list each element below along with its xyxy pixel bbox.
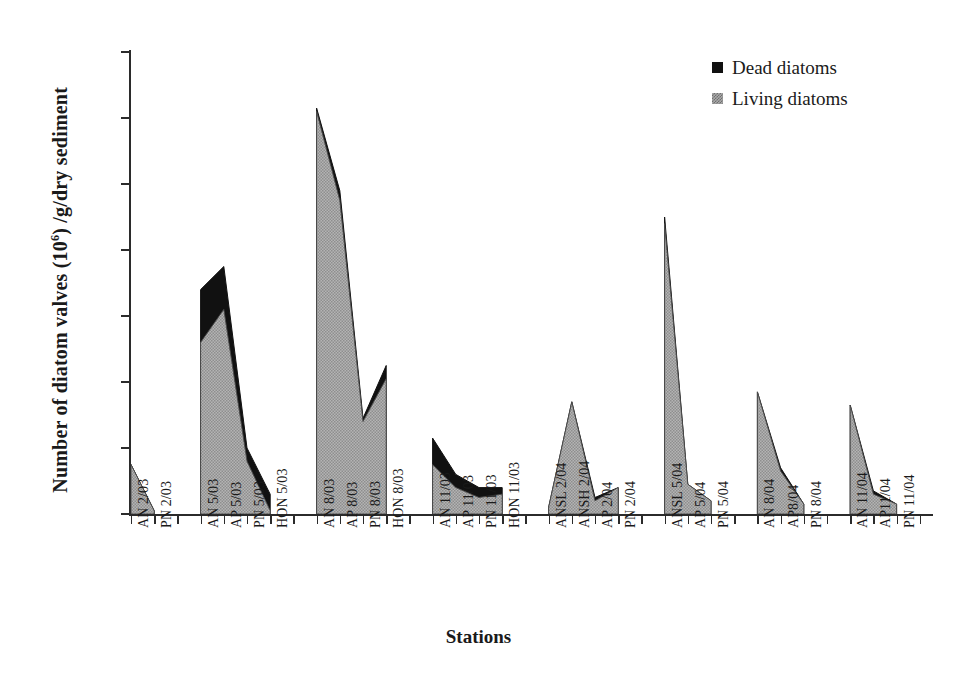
plot-area	[130, 52, 932, 514]
x-axis-tick-label: HON 11/03	[507, 462, 523, 528]
x-axis-tick	[757, 515, 758, 524]
y-axis-title: Number of diatom valves (106) /g/dry sed…	[48, 30, 72, 550]
x-axis-tick-label: AN 11/04	[855, 472, 871, 528]
x-axis-tick	[572, 515, 573, 524]
x-axis-tick-label: AN 8/03	[322, 479, 338, 528]
y-axis-tick	[121, 315, 130, 317]
x-axis-tick	[247, 515, 248, 524]
x-axis-tick-label: AP 5/04	[693, 482, 709, 528]
x-axis-tick	[665, 515, 666, 524]
x-axis-tick	[711, 515, 712, 524]
y-axis-tick	[121, 381, 130, 383]
y-axis-tick	[121, 513, 130, 515]
legend-item-dead-diatoms: Dead diatoms	[712, 52, 848, 83]
x-axis-tick	[340, 515, 341, 524]
x-axis-tick	[781, 515, 782, 524]
x-axis-tick-label: PN 8/04	[809, 481, 825, 528]
x-axis-tick	[433, 515, 434, 524]
x-axis-tick	[154, 515, 155, 524]
x-axis-tick	[850, 515, 851, 524]
x-axis-tick	[688, 515, 689, 524]
x-axis-tick	[873, 515, 874, 524]
x-axis-tick	[897, 515, 898, 524]
x-axis-tick-label: AP8/04	[786, 485, 802, 528]
y-axis-tick	[121, 51, 130, 53]
x-axis-tick-label: ANSH 2/04	[577, 461, 593, 528]
x-axis-tick-label: ANSL 5/04	[670, 463, 686, 528]
x-axis-tick-label: AN 8/04	[762, 479, 778, 528]
legend-swatch-dead-icon	[712, 62, 723, 73]
x-axis-tick-label: PN 2/03	[159, 481, 175, 528]
y-axis-title-exponent: 6	[48, 235, 62, 241]
x-axis-tick-label: PN 11/04	[902, 474, 918, 528]
legend-label-dead: Dead diatoms	[732, 52, 837, 83]
x-axis-tick	[804, 515, 805, 524]
y-axis-title-prefix: Number of diatom valves (10	[49, 241, 71, 493]
x-axis-tick	[618, 515, 619, 524]
stacked-area-series	[130, 52, 932, 514]
x-axis-tick-label: AP11/04	[878, 478, 894, 528]
x-axis-tick	[549, 515, 550, 524]
x-axis-title: Stations	[0, 626, 957, 648]
x-axis-tick	[270, 515, 271, 524]
x-axis-tick-label: AP 8/03	[345, 482, 361, 528]
x-axis-tick-label: PN 5/04	[716, 481, 732, 528]
x-axis-tick-label: PN 11/03	[484, 474, 500, 528]
x-axis-tick	[177, 515, 178, 524]
x-axis-tick-label: AN 5/03	[206, 479, 222, 528]
x-axis-tick	[224, 515, 225, 524]
x-axis-tick	[827, 515, 828, 524]
x-axis-tick	[734, 515, 735, 524]
legend-swatch-living-icon	[712, 93, 723, 104]
x-axis-tick-label: PN 8/03	[368, 481, 384, 528]
x-axis-tick-label: PN 2/04	[623, 481, 639, 528]
x-axis-tick-label: HON 5/03	[275, 468, 291, 528]
x-axis-tick	[502, 515, 503, 524]
x-axis-tick-label: AP 2/04	[600, 482, 616, 528]
x-axis-tick	[317, 515, 318, 524]
x-axis-tick-label: AN 11/03	[438, 472, 454, 528]
x-axis-tick	[479, 515, 480, 524]
x-axis-tick	[131, 515, 132, 524]
y-axis-tick	[121, 249, 130, 251]
x-axis-tick	[363, 515, 364, 524]
x-axis-tick	[386, 515, 387, 524]
x-axis-tick	[525, 515, 526, 524]
x-axis-tick-label: HON 8/03	[391, 468, 407, 528]
x-axis-tick	[920, 515, 921, 524]
x-axis-tick	[201, 515, 202, 524]
x-axis-tick	[595, 515, 596, 524]
chart-legend: Dead diatoms Living diatoms	[712, 52, 848, 114]
y-axis-title-suffix: ) /g/dry sediment	[49, 87, 71, 235]
legend-label-living: Living diatoms	[732, 83, 848, 114]
x-axis-tick	[409, 515, 410, 524]
x-axis-tick	[456, 515, 457, 524]
x-axis-tick-label: PN 5/03	[252, 481, 268, 528]
x-axis-tick	[641, 515, 642, 524]
area-living-diatoms	[317, 111, 387, 514]
x-axis-tick-label: AN 2/03	[136, 479, 152, 528]
diatom-valves-area-chart: Number of diatom valves (106) /g/dry sed…	[0, 0, 957, 676]
y-axis-tick	[121, 117, 130, 119]
y-axis-tick	[121, 447, 130, 449]
x-axis-tick	[293, 515, 294, 524]
legend-item-living-diatoms: Living diatoms	[712, 83, 848, 114]
x-axis-tick-label: AP 11/03	[461, 475, 477, 528]
x-axis-tick-label: AP 5/03	[229, 482, 245, 528]
y-axis-tick	[121, 183, 130, 185]
x-axis-tick-label: ANSL 2/04	[554, 463, 570, 528]
